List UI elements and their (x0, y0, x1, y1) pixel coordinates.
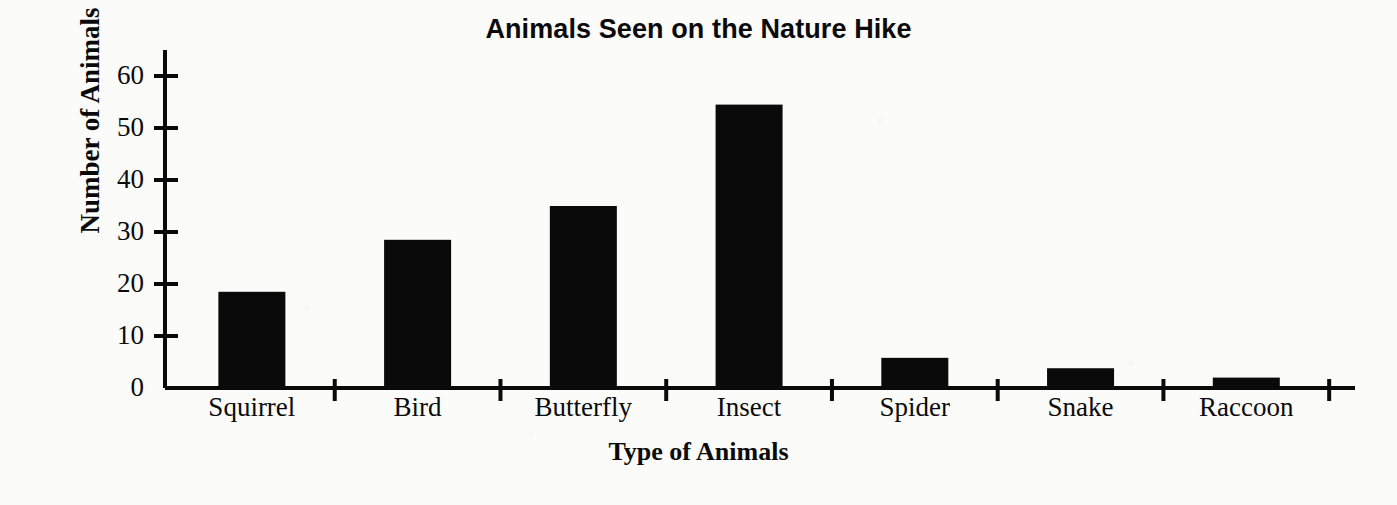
bar (1047, 368, 1114, 388)
x-axis-category-label: Insect (666, 392, 832, 423)
bar (716, 105, 783, 388)
x-axis-category-label: Bird (335, 392, 501, 423)
y-axis-tick-label: 40 (70, 166, 144, 193)
y-axis-tick-label: 20 (70, 270, 144, 297)
y-axis-tick-label: 0 (70, 374, 144, 401)
bar (1213, 378, 1280, 388)
x-axis-category-label: Raccoon (1163, 392, 1329, 423)
x-axis-category-label: Squirrel (169, 392, 335, 423)
bar (218, 292, 285, 388)
plot-area (0, 0, 1397, 505)
chart-figure: Animals Seen on the Nature Hike Number o… (0, 0, 1397, 505)
y-axis-tick-label: 50 (70, 114, 144, 141)
y-axis-tick-label: 30 (70, 218, 144, 245)
y-axis-tick-label: 60 (70, 62, 144, 89)
y-axis-tick-label: 10 (70, 322, 144, 349)
bar (384, 240, 451, 388)
bar (550, 206, 617, 388)
x-axis-category-label: Spider (832, 392, 998, 423)
bar (881, 358, 948, 388)
x-axis-category-label: Snake (998, 392, 1164, 423)
x-axis-category-label: Butterfly (500, 392, 666, 423)
